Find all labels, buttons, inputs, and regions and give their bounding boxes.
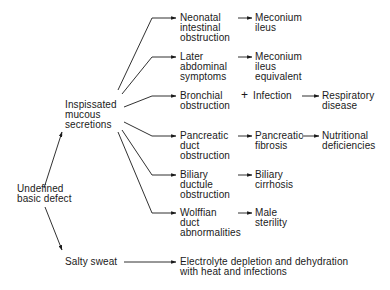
arrow-to-wolffian: [118, 132, 176, 213]
node-root: Undefined basic defect: [17, 184, 72, 204]
node-male-sterility: Male sterility: [255, 208, 287, 228]
arrow-to-biliary: [122, 130, 176, 175]
node-biliary-cirrhosis: Biliary cirrhosis: [255, 170, 293, 190]
plus-sign: +: [241, 90, 248, 100]
node-infection: Infection: [253, 91, 292, 101]
node-later-abdominal: Later abdominal symptoms: [180, 52, 227, 82]
node-meconium-equivalent: Meconium ileus equivalent: [255, 52, 302, 82]
node-pancreatic-duct: Pancreatic duct obstruction: [180, 131, 230, 161]
node-sweat-outcome: Electrolyte depletion and dehydration wi…: [180, 257, 348, 277]
arrow-to-pancreatic: [124, 122, 176, 136]
node-secretions: Inspissated mucous secretions: [65, 100, 117, 130]
node-meconium-ileus: Meconium ileus: [255, 13, 302, 33]
node-wolffian: Wolffian duct abnormalities: [180, 208, 241, 238]
arrow-root-to-secretions: [44, 132, 62, 188]
arrow-to-later: [122, 57, 176, 94]
node-salty-sweat: Salty sweat: [65, 257, 117, 267]
node-pancreatic-fibrosis: Pancreatic fibrosis: [255, 131, 303, 151]
node-respiratory: Respiratory disease: [322, 91, 374, 111]
node-bronchial: Bronchial obstruction: [180, 91, 230, 111]
arrow-to-neonatal: [118, 18, 176, 90]
node-nutritional: Nutritional deficiencies: [322, 131, 375, 151]
arrow-root-to-sweat: [45, 207, 62, 250]
arrow-to-bronchial: [124, 96, 176, 107]
node-biliary-ductule: Biliary ductule obstruction: [180, 170, 230, 200]
node-neonatal: Neonatal intestinal obstruction: [180, 13, 230, 43]
